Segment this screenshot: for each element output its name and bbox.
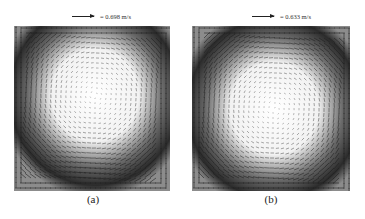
vector-field-plot-a xyxy=(14,26,170,191)
vector-field-plot-b xyxy=(192,26,350,191)
caption-a: (a) xyxy=(73,193,113,205)
reference-arrow-icon xyxy=(72,16,94,17)
vector-field-panel-a xyxy=(14,26,170,191)
scale-label-b: = 0.633 m/s xyxy=(280,13,311,20)
scale-label-a: = 0.698 m/s xyxy=(100,13,131,20)
reference-arrow-icon xyxy=(252,16,274,17)
caption-b: (b) xyxy=(251,193,291,205)
velocity-field-figure: = 0.698 m/s = 0.633 m/s (a) (b) xyxy=(0,0,365,219)
scale-legend-b: = 0.633 m/s xyxy=(252,10,311,22)
scale-legend-a: = 0.698 m/s xyxy=(72,10,131,22)
vector-field-panel-b xyxy=(192,26,350,191)
